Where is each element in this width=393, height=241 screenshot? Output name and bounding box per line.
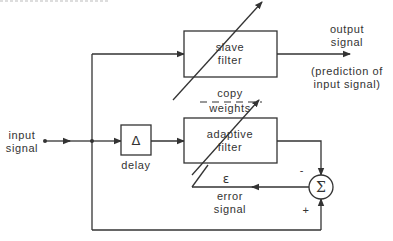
sigma-symbol: Σ xyxy=(316,179,326,195)
prediction-label-1: (prediction of xyxy=(311,65,383,77)
input-label-2: signal xyxy=(6,142,38,154)
slave-filter-label-2: filter xyxy=(218,54,242,66)
error-label-2: signal xyxy=(214,203,246,215)
input-label-1: input xyxy=(9,129,36,141)
delay-label: delay xyxy=(121,159,150,171)
output-label-1: output xyxy=(330,23,364,35)
error-label-1: error xyxy=(217,190,243,202)
delay-symbol: Δ xyxy=(132,133,141,148)
weights-label: weights xyxy=(208,102,251,114)
copy-label: copy xyxy=(217,87,243,99)
output-label-2: signal xyxy=(331,36,363,48)
minus-sign: - xyxy=(300,164,304,176)
plus-sign: + xyxy=(302,204,309,216)
epsilon-symbol: ε xyxy=(223,172,230,186)
error-diag xyxy=(192,165,208,187)
prediction-label-2: input signal) xyxy=(313,78,380,90)
adaptive-predictor-diagram: Δ delay slave filter output signal (pred… xyxy=(0,0,393,241)
adaptive-filter-label-1: adaptive xyxy=(207,128,253,140)
slave-filter-label-1: slave xyxy=(216,41,245,53)
